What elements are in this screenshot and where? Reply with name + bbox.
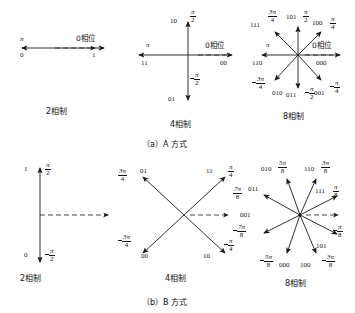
a4-title: 4相制 bbox=[170, 118, 191, 129]
a8-bits-010: 010 bbox=[272, 90, 283, 97]
b8-angle-67: 3π 8 bbox=[321, 160, 330, 176]
a8-angle-90: π 2 bbox=[303, 9, 309, 25]
b8-bits-100: 100 bbox=[300, 262, 311, 269]
b2-bits-0: 0 bbox=[24, 252, 28, 259]
a8-bits-101: 101 bbox=[286, 14, 297, 21]
a2-angle-pi: π bbox=[20, 36, 24, 43]
b8-frac-157: 7π 8 bbox=[233, 186, 242, 202]
b8-angle-neg157: 7π 8 bbox=[233, 224, 246, 240]
a8-frac-neg135: 3π 4 bbox=[256, 76, 265, 92]
b8-bits-010: 010 bbox=[261, 166, 272, 173]
a8-frac-90: π 2 bbox=[303, 9, 309, 25]
a4-frac-neg90: π 2 bbox=[194, 72, 200, 88]
b2-angle-90: π 2 bbox=[45, 162, 51, 178]
b8-angle-neg112: 5π 8 bbox=[260, 254, 273, 270]
a4-angle-neg90: π 2 bbox=[190, 72, 200, 88]
phase-constellation-figure: π 0 0相位 1 2相制 π 2 10 π 11 π 2 01 0相位 00 … bbox=[0, 0, 355, 313]
a8-bits-100: 100 bbox=[312, 20, 323, 27]
b8-bits-101: 101 bbox=[316, 243, 327, 250]
b4-angle-neg135: 3π 4 bbox=[118, 234, 131, 250]
b4-bits-01: 01 bbox=[140, 168, 147, 175]
b2-bits-1: 1 bbox=[24, 166, 28, 173]
a8-angle-45: π 4 bbox=[330, 16, 336, 32]
a8-frac-45: π 4 bbox=[330, 16, 336, 32]
b4-angle-45: π 4 bbox=[228, 164, 234, 180]
a2-title: 2相制 bbox=[46, 105, 67, 116]
b4-frac-45: π 4 bbox=[228, 164, 234, 180]
b2-title: 2相制 bbox=[20, 272, 41, 283]
b4-frac-135: 3π 4 bbox=[118, 168, 127, 184]
a8-bits-000: 000 bbox=[316, 60, 327, 67]
b8-frac-neg112: 5π 8 bbox=[264, 254, 273, 270]
b4-frac-neg135: 3π 4 bbox=[122, 234, 131, 250]
b8-angle-neg67: 3π 8 bbox=[322, 254, 335, 270]
panel-a-four-phase-axes bbox=[139, 22, 232, 100]
b8-bits-000: 000 bbox=[279, 262, 290, 269]
a8-angle-pi: π bbox=[266, 42, 270, 49]
a8-frac-135: 3π 4 bbox=[268, 9, 277, 25]
b4-bits-10: 10 bbox=[203, 253, 210, 260]
panel-b-four-phase-axes bbox=[143, 177, 228, 253]
b4-angle-135: 3π 4 bbox=[118, 168, 127, 184]
b8-bits-011: 011 bbox=[248, 186, 258, 193]
a8-bits-111: 111 bbox=[250, 22, 260, 29]
a4-angle-90: π 2 bbox=[190, 9, 196, 25]
b2-frac-90: π 2 bbox=[45, 162, 51, 178]
a8-bits-001: 001 bbox=[314, 90, 325, 97]
b8-angle-112: 5π 8 bbox=[278, 160, 287, 176]
panel-a-eight-phase-axes bbox=[262, 27, 340, 88]
a8-frac-neg45: π 4 bbox=[334, 80, 340, 96]
b4-bits-11: 11 bbox=[206, 168, 213, 175]
b2-angle-neg90: π 2 bbox=[45, 248, 55, 264]
b8-bits-001: 001 bbox=[240, 212, 251, 219]
b8-frac-22: π 8 bbox=[333, 184, 339, 200]
a4-angle-pi: π bbox=[146, 42, 150, 49]
a4-bits-11: 11 bbox=[141, 60, 148, 67]
a4-frac-90: π 2 bbox=[190, 9, 196, 25]
b8-frac-neg157: 7π 8 bbox=[237, 224, 246, 240]
b4-bits-00: 00 bbox=[141, 253, 148, 260]
a4-zero-phase-label: 0相位 bbox=[205, 42, 224, 50]
b4-frac-neg45: π 4 bbox=[228, 238, 234, 254]
b8-bits-111: 111 bbox=[315, 188, 325, 195]
caption-b: （b）B 方式 bbox=[142, 296, 187, 307]
b8-angle-neg22: π 8 bbox=[333, 224, 343, 240]
a8-angle-135: 3π 4 bbox=[268, 9, 277, 25]
a2-zero-phase-label: 0相位 bbox=[76, 35, 95, 43]
a8-zero-phase-label: 0相位 bbox=[312, 42, 331, 50]
b2-frac-neg90: π 2 bbox=[49, 248, 55, 264]
a2-bits-1: 1 bbox=[92, 52, 96, 59]
b8-frac-112: 5π 8 bbox=[278, 160, 287, 176]
b4-angle-neg45: π 4 bbox=[224, 238, 234, 254]
b8-frac-67: 3π 8 bbox=[321, 160, 330, 176]
b8-angle-157: 7π 8 bbox=[233, 186, 242, 202]
a4-bits-01: 01 bbox=[168, 96, 175, 103]
a8-bits-110: 110 bbox=[252, 60, 262, 67]
a8-title: 8相制 bbox=[283, 110, 304, 121]
a4-bits-00: 00 bbox=[220, 60, 227, 67]
a8-angle-neg45: π 4 bbox=[330, 80, 340, 96]
b8-angle-22: π 8 bbox=[333, 184, 339, 200]
b8-title: 8相制 bbox=[285, 277, 306, 288]
b8-bits-110: 110 bbox=[304, 166, 314, 173]
caption-a: （a）A 方式 bbox=[142, 138, 187, 149]
b4-title: 4相制 bbox=[165, 272, 186, 283]
b8-frac-neg67: 3π 8 bbox=[326, 254, 335, 270]
a4-bits-10: 10 bbox=[170, 18, 177, 25]
b8-frac-neg22: π 8 bbox=[337, 224, 343, 240]
a8-bits-011: 011 bbox=[286, 92, 296, 99]
a2-bits-0: 0 bbox=[20, 52, 24, 59]
a8-angle-neg135: 3π 4 bbox=[252, 76, 265, 92]
